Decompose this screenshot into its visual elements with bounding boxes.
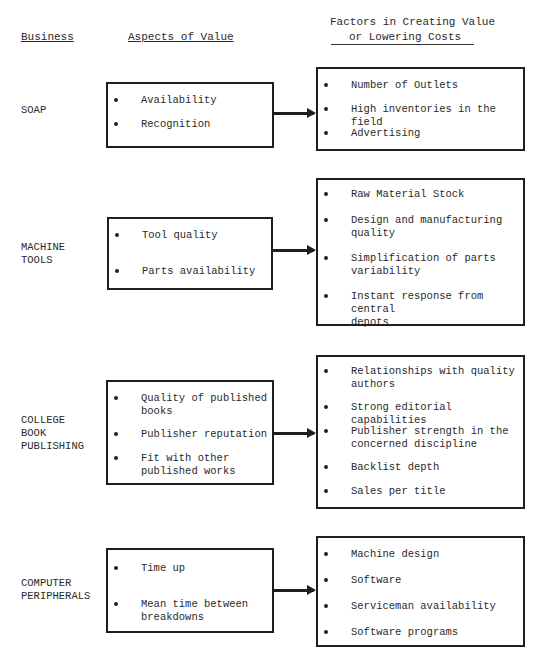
bullet-icon [324,578,328,582]
factors-box-soap: Number of Outlets High inventories in th… [316,67,525,151]
header-aspects-of-value: Aspects of Value [128,30,234,44]
business-label-college-book-publishing: COLLEGE BOOK PUBLISHING [21,414,84,453]
factors-box-machine-tools: Raw Material Stock Design and manufactur… [316,178,525,326]
header-factors-line1: Factors in Creating Value [330,15,480,29]
bullet-icon [114,98,118,102]
bullet-icon [324,489,328,493]
bullet-icon [114,122,118,126]
bullet-icon [114,456,118,460]
bullet-icon [114,432,118,436]
bullet-icon [115,269,119,273]
business-label-machine-tools: MACHINE TOOLS [21,241,65,267]
bullet-icon [324,131,328,135]
arrow-icon [273,249,314,252]
bullet-icon [114,602,118,606]
bullet-icon [114,566,118,570]
bullet-icon [324,192,328,196]
bullet-icon [115,233,119,237]
business-label-soap: SOAP [21,104,46,117]
bullet-icon [324,83,328,87]
bullet-icon [114,396,118,400]
business-label-computer-peripherals: COMPUTER PERIPHERALS [21,577,90,603]
bullet-icon [324,465,328,469]
bullet-icon [324,294,328,298]
bullet-icon [324,429,328,433]
arrow-icon [274,589,314,592]
arrow-icon [274,432,314,435]
bullet-icon [324,256,328,260]
factors-box-college-book-publishing: Relationships with quality authors Stron… [316,355,525,509]
bullet-icon [324,630,328,634]
arrow-icon [274,112,314,115]
aspects-box-computer-peripherals: Time up Mean time between breakdowns [106,548,274,633]
aspects-box-machine-tools: Tool quality Parts availability [107,217,273,290]
bullet-icon [324,369,328,373]
header-factors-line2: or Lowering Costs [330,30,480,44]
bullet-icon [324,604,328,608]
bullet-icon [324,552,328,556]
header-factors-underline [331,44,474,45]
bullet-icon [324,218,328,222]
bullet-icon [324,405,328,409]
aspects-box-college-book-publishing: Quality of published books Publisher rep… [106,380,274,485]
factors-box-computer-peripherals: Machine design Software Serviceman avail… [316,536,525,647]
bullet-icon [324,107,328,111]
header-business: Business [21,30,74,44]
aspects-box-soap: Availability Recognition [106,82,274,148]
